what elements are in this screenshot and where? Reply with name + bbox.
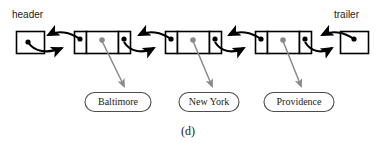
element-label-new-york: New York xyxy=(179,96,239,107)
element-label-baltimore: Baltimore xyxy=(85,96,151,107)
linked-list-figure: header trailer Baltimore New York Provid… xyxy=(0,0,376,146)
header-label: header xyxy=(12,9,43,20)
figure-caption: (d) xyxy=(0,124,376,139)
element-label-providence: Providence xyxy=(264,96,334,107)
diagram-text-layer: header trailer Baltimore New York Provid… xyxy=(0,0,376,146)
trailer-label: trailer xyxy=(334,9,359,20)
